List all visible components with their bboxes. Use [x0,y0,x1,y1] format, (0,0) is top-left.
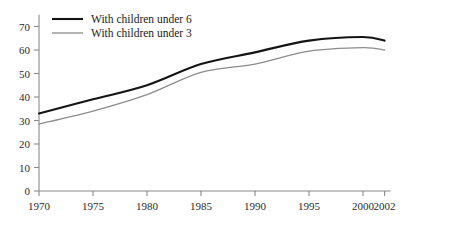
x-tick-label: 1970 [28,200,51,212]
y-tick-label: 30 [19,115,31,127]
x-tick-label: 1985 [190,200,213,212]
x-tick-label: 2000 [352,200,375,212]
x-tick-label: 1980 [136,200,159,212]
y-tick-label: 70 [19,21,31,33]
chart-axes [39,15,391,191]
x-axis-ticks: 19701975198019851990199520002002 [28,191,396,212]
y-tick-label: 10 [19,162,31,174]
chart-legend: With children under 6With children under… [52,13,192,39]
x-tick-label: 1990 [244,200,267,212]
y-tick-label: 20 [19,138,31,150]
series-line [39,48,385,124]
x-tick-label: 1995 [298,200,321,212]
line-chart: 0102030405060701970197519801985199019952… [0,0,451,232]
legend-label: With children under 6 [91,13,192,25]
x-tick-label: 1975 [82,200,105,212]
y-axis-ticks: 010203040506070 [19,21,39,198]
x-tick-label: 2002 [374,200,396,212]
y-tick-label: 40 [19,91,31,103]
y-tick-label: 0 [25,185,31,197]
y-tick-label: 60 [19,44,31,56]
legend-label: With children under 3 [91,27,192,39]
chart-series [39,37,385,124]
y-tick-label: 50 [19,68,31,80]
chart-container: 0102030405060701970197519801985199019952… [0,0,451,232]
